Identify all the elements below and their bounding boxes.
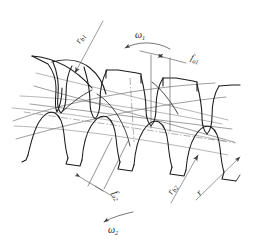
rotation-arrow-omega-1	[125, 43, 170, 49]
label-f-a1: fa1	[189, 52, 201, 65]
rotation-arrow-omega-2	[104, 212, 133, 222]
leader-r-b2	[171, 155, 198, 203]
gear-meshing-diagram: rb1 ω1 fa1 fa2 rb2 r	[0, 0, 258, 241]
label-omega-2: ω2	[108, 224, 118, 236]
label-r-b1: rb1	[73, 31, 87, 45]
label-omega-1: ω1	[135, 29, 145, 41]
figure-canvas: rb1 ω1 fa1 fa2 rb2 r	[0, 0, 258, 241]
gear-lower-profile	[22, 112, 240, 181]
leader-r-b1	[75, 21, 103, 73]
label-r-b2: rb2	[165, 182, 179, 196]
dimension-f-a2	[80, 138, 128, 196]
label-f-a2: fa2	[109, 189, 123, 202]
label-r: r	[194, 188, 204, 198]
gear-upper-profile	[32, 56, 240, 134]
